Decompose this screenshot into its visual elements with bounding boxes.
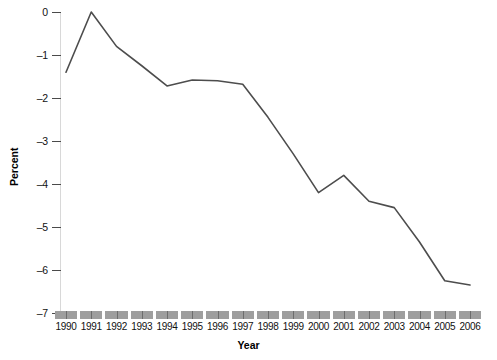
x-axis-tick (268, 311, 269, 319)
line-chart: Percent 0–1–2–3–4–5–6–7 1990199119921993… (0, 0, 497, 360)
x-axis-tick (142, 311, 143, 319)
x-axis-tick (394, 311, 395, 319)
x-axis-tick (91, 311, 92, 319)
x-axis-tick-label: 2006 (453, 321, 487, 333)
x-axis-tick (167, 311, 168, 319)
x-axis-tick (470, 311, 471, 319)
plot-area (0, 0, 497, 360)
x-axis-tick (420, 311, 421, 319)
x-axis-tick (344, 311, 345, 319)
x-axis-tick (445, 311, 446, 319)
x-axis-title: Year (0, 339, 497, 351)
data-series-line (66, 12, 470, 285)
x-axis-tick (369, 311, 370, 319)
x-axis-tick (117, 311, 118, 319)
x-axis-tick (192, 311, 193, 319)
x-axis-tick (293, 311, 294, 319)
x-axis-band (53, 311, 483, 319)
x-axis-tick (243, 311, 244, 319)
x-axis-tick (319, 311, 320, 319)
x-axis-tick (218, 311, 219, 319)
x-axis-tick (66, 311, 67, 319)
